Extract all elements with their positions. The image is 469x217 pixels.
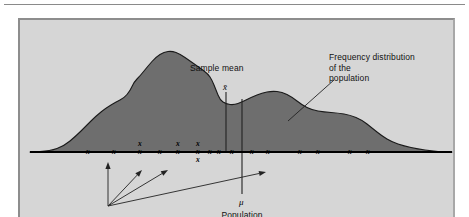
sample-point-mark: x <box>112 148 116 156</box>
frequency-distribution-label-line3: population <box>329 73 415 84</box>
sample-point-mark: x <box>86 148 90 156</box>
sample-point-mark: x <box>217 148 221 156</box>
sample-point-mark: x <box>196 140 200 148</box>
sample-point-mark: x <box>138 148 142 156</box>
frequency-distribution-label-line1: Frequency distribution <box>329 52 415 63</box>
distribution-diagram-svg <box>20 20 457 217</box>
sample-point-mark: x <box>176 148 180 156</box>
sample-point-mark: x <box>208 148 212 156</box>
sample-point-callout-arrowhead <box>161 170 168 176</box>
figure-root: xxxxxxxxxxxxxxxxxxx Sample mean Frequenc… <box>0 0 469 217</box>
population-mean-label-line1: Population <box>211 210 273 217</box>
sample-point-mark: x <box>266 148 270 156</box>
population-mean-label: Population mean <box>211 210 273 217</box>
sample-point-mark: x <box>176 140 180 148</box>
sample-point-callout-arrowhead <box>259 171 266 176</box>
frequency-distribution-label-line2: of the <box>329 63 415 74</box>
sample-point-callout-arrowhead <box>105 162 110 169</box>
sample-point-mark: x <box>298 148 302 156</box>
sample-point-mark: x <box>366 148 370 156</box>
population-mean-symbol: μ <box>239 197 244 207</box>
sample-point-callout-line <box>108 174 162 206</box>
sample-point-mark: x <box>196 156 200 164</box>
diagram-panel: xxxxxxxxxxxxxxxxxxx Sample mean Frequenc… <box>18 18 455 217</box>
sample-point-mark: x <box>138 140 142 148</box>
frequency-distribution-label: Frequency distribution of the population <box>329 52 415 84</box>
sample-point-callout-line <box>108 175 137 206</box>
top-horizontal-rule <box>4 4 465 5</box>
sample-point-mark: x <box>316 148 320 156</box>
sample-point-callout-line <box>108 173 259 206</box>
sample-mean-symbol: x̄ <box>223 82 227 92</box>
sample-point-mark: x <box>230 148 234 156</box>
sample-point-mark: x <box>250 148 254 156</box>
sample-mean-label: Sample mean <box>190 63 244 74</box>
sample-point-mark: x <box>158 148 162 156</box>
sample-point-mark: x <box>348 148 352 156</box>
